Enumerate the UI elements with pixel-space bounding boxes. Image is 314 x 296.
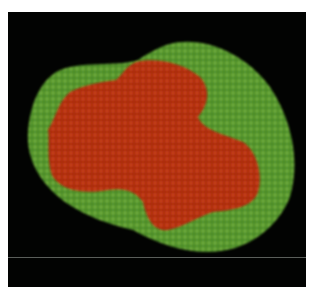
divider-line [8, 257, 306, 258]
cell-cluster-graphic [8, 12, 306, 287]
micrograph-panel [8, 12, 306, 287]
